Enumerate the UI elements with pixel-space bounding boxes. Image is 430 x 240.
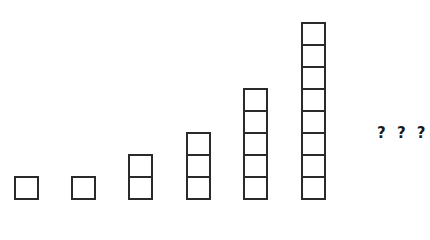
square-cell	[14, 176, 39, 200]
square-cell	[186, 132, 211, 156]
square-cell	[243, 154, 268, 178]
square-cell	[243, 88, 268, 112]
square-column-4	[186, 132, 211, 200]
unknown-next-term-label: ? ? ?	[377, 124, 429, 142]
square-cell	[301, 44, 326, 68]
square-cell	[186, 176, 211, 200]
square-cell	[301, 88, 326, 112]
square-cell	[243, 110, 268, 134]
square-column-2	[71, 176, 96, 200]
square-cell	[186, 154, 211, 178]
square-cell	[128, 176, 153, 200]
square-cell	[301, 132, 326, 156]
square-column-3	[128, 154, 153, 200]
square-cell	[243, 132, 268, 156]
square-cell	[301, 154, 326, 178]
square-cell	[243, 176, 268, 200]
square-cell	[301, 110, 326, 134]
square-column-1	[14, 176, 39, 200]
square-column-6	[301, 22, 326, 200]
square-cell	[128, 154, 153, 178]
square-cell	[71, 176, 96, 200]
square-column-5	[243, 88, 268, 200]
square-cell	[301, 176, 326, 200]
square-cell	[301, 22, 326, 46]
square-cell	[301, 66, 326, 90]
